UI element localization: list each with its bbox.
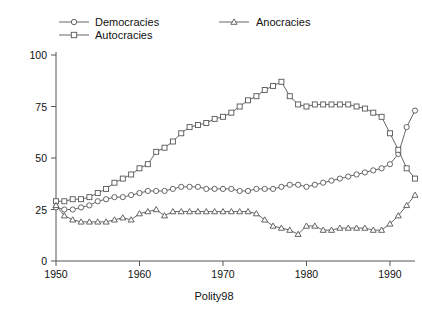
square-marker-icon — [145, 162, 150, 167]
circle-marker-icon — [229, 186, 234, 191]
x-tick-label: 1950 — [44, 268, 68, 280]
circle-marker-icon — [62, 207, 67, 212]
square-marker-icon — [129, 172, 134, 177]
square-marker-icon — [287, 94, 292, 99]
square-marker-icon — [87, 195, 92, 200]
series-autocracies — [54, 79, 418, 203]
circle-marker-icon — [245, 188, 250, 193]
legend-item-anocracies: Anocracies — [219, 16, 311, 28]
square-marker-icon — [120, 176, 125, 181]
circle-marker-icon — [412, 108, 417, 113]
square-marker-icon — [112, 180, 117, 185]
y-tick-group: 0255075100 — [29, 49, 56, 267]
y-tick-label: 50 — [35, 152, 47, 164]
circle-marker-icon — [204, 186, 209, 191]
triangle-marker-icon — [153, 207, 159, 212]
square-marker-icon — [246, 98, 251, 103]
x-tick-label: 1970 — [211, 268, 235, 280]
triangle-marker-icon — [120, 215, 126, 220]
square-marker-icon — [95, 191, 100, 196]
square-marker-icon — [212, 116, 217, 121]
x-tick-label: 1990 — [378, 268, 402, 280]
circle-marker-icon — [387, 162, 392, 167]
triangle-marker-icon — [70, 217, 76, 222]
square-marker-icon — [154, 149, 159, 154]
circle-marker-icon — [78, 205, 83, 210]
square-marker-icon — [162, 145, 167, 150]
square-marker-icon — [254, 94, 259, 99]
legend-item-autocracies: Autocracies — [59, 29, 153, 41]
circle-marker-icon — [154, 188, 159, 193]
y-tick-label: 25 — [35, 204, 47, 216]
chart-legend: Democracies Autocracies Anocracies — [59, 16, 311, 41]
y-tick-label: 75 — [35, 101, 47, 113]
circle-marker-icon — [287, 182, 292, 187]
circle-marker-icon — [162, 188, 167, 193]
square-marker-icon — [329, 102, 334, 107]
circle-marker-icon — [304, 184, 309, 189]
square-marker-icon — [137, 166, 142, 171]
x-axis-title: Polity98 — [194, 290, 233, 302]
square-marker-icon — [262, 88, 267, 93]
circle-marker-icon — [262, 186, 267, 191]
square-marker-icon — [304, 104, 309, 109]
square-marker-icon — [70, 197, 75, 202]
circle-marker-icon — [362, 170, 367, 175]
circle-marker-icon — [337, 176, 342, 181]
circle-marker-icon — [279, 184, 284, 189]
y-tick-label: 0 — [41, 255, 47, 267]
square-marker-icon — [312, 102, 317, 107]
circle-marker-icon — [187, 184, 192, 189]
circle-marker-icon — [270, 186, 275, 191]
x-axis: 19501960197019801990 Polity98 — [44, 261, 415, 302]
series-democracies — [53, 108, 417, 212]
square-marker-icon — [321, 102, 326, 107]
circle-marker-icon — [237, 188, 242, 193]
square-marker-icon — [296, 102, 301, 107]
series-layer — [53, 79, 418, 236]
circle-marker-icon — [120, 195, 125, 200]
circle-marker-icon — [95, 199, 100, 204]
y-axis: 0255075100 — [29, 49, 56, 267]
square-marker-icon — [79, 197, 84, 202]
square-marker-icon — [379, 114, 384, 119]
circle-marker-icon — [71, 19, 76, 24]
circle-marker-icon — [346, 174, 351, 179]
circle-marker-icon — [354, 172, 359, 177]
square-marker-icon — [179, 131, 184, 136]
x-tick-label: 1960 — [128, 268, 152, 280]
circle-marker-icon — [179, 184, 184, 189]
circle-marker-icon — [404, 125, 409, 130]
circle-marker-icon — [129, 192, 134, 197]
square-marker-icon — [195, 123, 200, 128]
square-marker-icon — [204, 120, 209, 125]
square-marker-icon — [371, 110, 376, 115]
circle-marker-icon — [170, 186, 175, 191]
legend-label-autocracies: Autocracies — [95, 29, 153, 41]
triangle-marker-icon — [270, 223, 276, 228]
circle-marker-icon — [195, 184, 200, 189]
square-marker-icon — [187, 125, 192, 130]
triangle-marker-icon — [262, 217, 268, 222]
square-marker-icon — [170, 139, 175, 144]
circle-marker-icon — [379, 166, 384, 171]
circle-marker-icon — [296, 182, 301, 187]
square-marker-icon — [346, 102, 351, 107]
square-marker-icon — [71, 32, 76, 37]
x-tick-group: 19501960197019801990 — [44, 261, 401, 280]
circle-marker-icon — [371, 168, 376, 173]
series-line-autocracies — [56, 82, 415, 201]
circle-marker-icon — [220, 186, 225, 191]
circle-marker-icon — [212, 186, 217, 191]
legend-label-democracies: Democracies — [95, 16, 160, 28]
circle-marker-icon — [103, 197, 108, 202]
square-marker-icon — [413, 176, 418, 181]
circle-marker-icon — [112, 195, 117, 200]
square-marker-icon — [404, 166, 409, 171]
polity98-regime-type-chart: Democracies Autocracies Anocracies 02550… — [0, 0, 422, 321]
y-tick-label: 100 — [29, 49, 47, 61]
legend-item-democracies: Democracies — [59, 16, 160, 28]
x-tick-label: 1980 — [295, 268, 319, 280]
circle-marker-icon — [137, 190, 142, 195]
square-marker-icon — [279, 79, 284, 84]
